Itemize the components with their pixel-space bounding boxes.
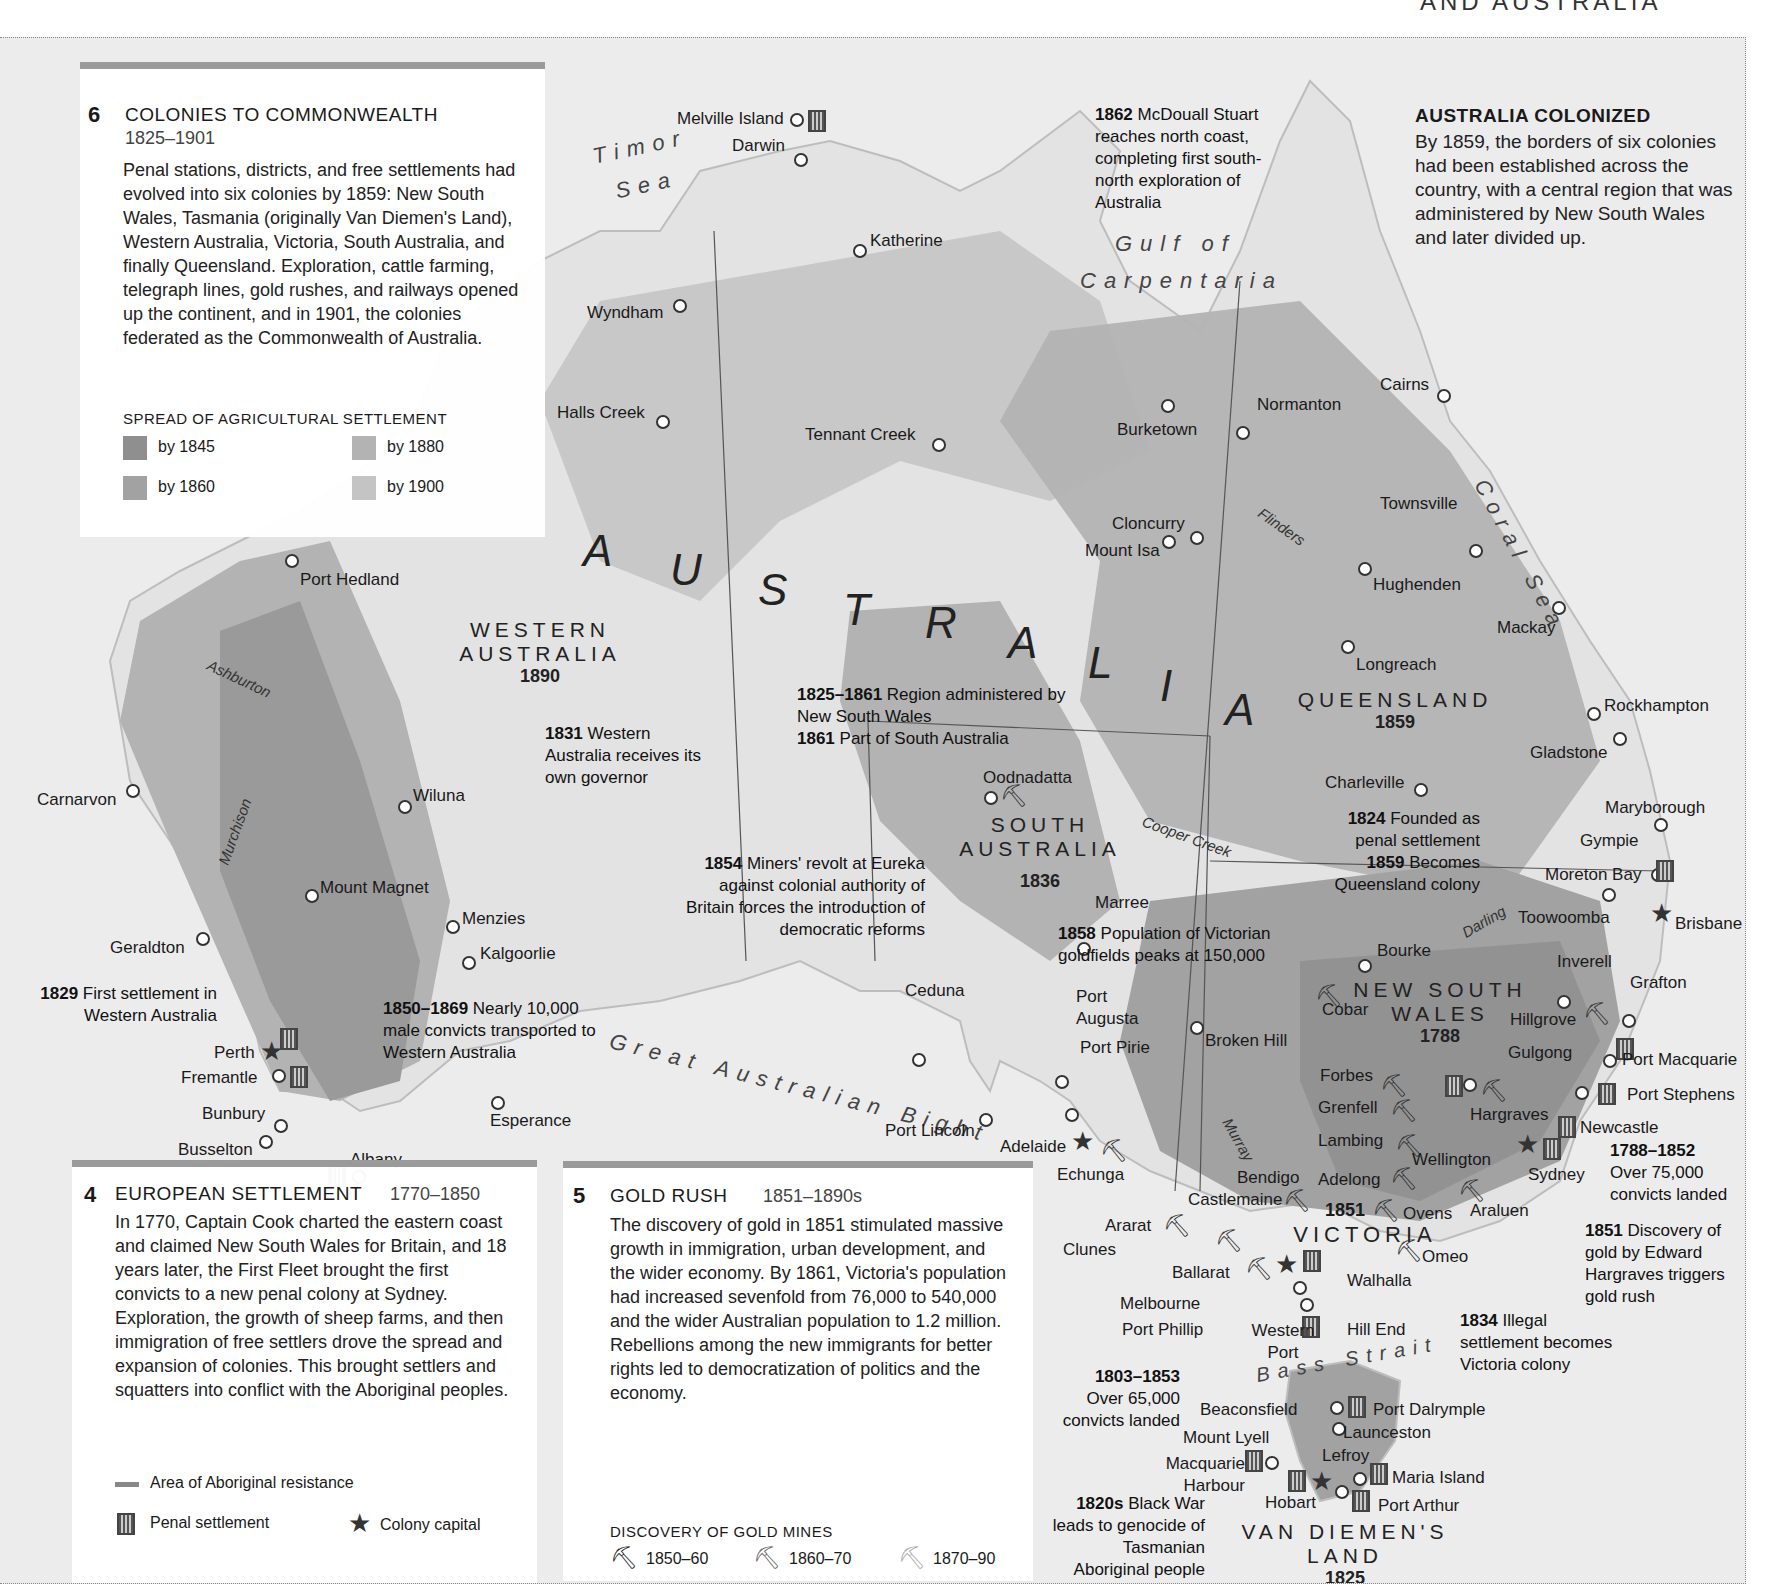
legend-title: DISCOVERY OF GOLD MINES — [610, 1523, 833, 1540]
city-longreach: Longreach — [1356, 655, 1436, 675]
city-cairns: Cairns — [1380, 375, 1429, 395]
city-dot — [1587, 707, 1601, 721]
legend-label: Area of Aboriginal resistance — [150, 1474, 354, 1492]
city-adelaide: Adelaide — [1000, 1137, 1066, 1157]
big-letter: A — [583, 526, 612, 576]
city-ballarat: Ballarat — [1172, 1263, 1230, 1283]
city-tennant-creek: Tennant Creek — [805, 425, 916, 445]
city-esperance: Esperance — [490, 1111, 571, 1131]
gold-mine-pickaxe-icon: ⛏ — [1100, 1138, 1128, 1164]
penal-settlement-icon — [1303, 1250, 1321, 1272]
city-gladstone: Gladstone — [1530, 743, 1608, 763]
penal-settlement-icon — [280, 1028, 298, 1050]
city-dot — [1341, 640, 1355, 654]
note-year: 1825–1861 — [797, 685, 882, 704]
city-dot — [1300, 1298, 1314, 1312]
city-hillgrove: Hillgrove — [1510, 1010, 1576, 1030]
city-gulgong: Gulgong — [1508, 1043, 1572, 1063]
city-dot — [984, 791, 998, 805]
gold-mine-pickaxe-icon: ⛏ — [1163, 1213, 1191, 1239]
city-dot — [1353, 1472, 1367, 1486]
region-year: 1890 — [440, 666, 640, 687]
city-moreton-bay: Moreton Bay — [1545, 865, 1641, 885]
city-dot — [305, 889, 319, 903]
legend-label: Colony capital — [380, 1516, 481, 1534]
city-darwin: Darwin — [732, 136, 785, 156]
city-dot — [1161, 399, 1175, 413]
city-dot — [673, 299, 687, 313]
city-carnarvon: Carnarvon — [37, 790, 116, 810]
gold-mine-pickaxe-icon: ⛏ — [1000, 783, 1028, 809]
city-bunbury: Bunbury — [202, 1104, 265, 1124]
colony-capital-star-icon: ★ — [1516, 1131, 1539, 1157]
city-dot — [656, 415, 670, 429]
city-wellington: Wellington — [1412, 1150, 1491, 1170]
city-mount-isa: Mount Isa — [1085, 541, 1160, 561]
penal-settlement-icon — [1352, 1490, 1370, 1512]
gold-mine-pickaxe-icon: ⛏ — [1390, 1098, 1418, 1124]
note-1803-1853: 1803–1853Over 65,000 convicts landed — [1050, 1366, 1180, 1432]
gold-mine-pickaxe-icon: ⛏ — [1390, 1166, 1418, 1192]
city-forbes: Forbes — [1320, 1066, 1373, 1086]
city-bourke: Bourke — [1377, 941, 1431, 961]
city-broken-hill: Broken Hill — [1205, 1031, 1287, 1051]
city-dot — [1190, 1021, 1204, 1035]
city-burketown: Burketown — [1117, 420, 1197, 440]
city-melville-island: Melville Island — [677, 109, 784, 129]
city-normanton: Normanton — [1257, 395, 1341, 415]
city-dot — [932, 438, 946, 452]
note-text: First settlement in Western Australia — [83, 984, 217, 1025]
note-year: 1859 — [1367, 853, 1405, 872]
colony-capital-star-icon: ★ — [1071, 1128, 1094, 1154]
city-dot — [274, 1119, 288, 1133]
city-dot — [1065, 1108, 1079, 1122]
panel-dates: 1770–1850 — [390, 1184, 480, 1205]
city-newcastle: Newcastle — [1580, 1118, 1658, 1138]
city-dot — [462, 956, 476, 970]
city-kalgoorlie: Kalgoorlie — [480, 944, 556, 964]
city-inverell: Inverell — [1557, 952, 1612, 972]
city-townsville: Townsville — [1380, 494, 1457, 514]
city-dot — [979, 1113, 993, 1127]
city-dot — [1293, 1281, 1307, 1295]
city-walhalla: Walhalla — [1347, 1271, 1412, 1291]
city-lefroy: Lefroy — [1322, 1446, 1369, 1466]
city-maryborough: Maryborough — [1605, 798, 1705, 818]
city-launceston: Launceston — [1343, 1423, 1431, 1443]
legend-label: 1870–90 — [933, 1550, 995, 1568]
city-dot — [285, 554, 299, 568]
city-dot — [446, 920, 460, 934]
note-1824: 1824 Founded as penal settlement1859 Bec… — [1315, 808, 1480, 896]
panel-bar — [80, 62, 545, 69]
colony-capital-star-icon: ★ — [348, 1510, 371, 1536]
city-katherine: Katherine — [870, 231, 943, 251]
penal-settlement-icon — [1288, 1470, 1306, 1492]
city-dot — [196, 932, 210, 946]
city-dot — [126, 784, 140, 798]
legend-swatch-1845 — [123, 436, 147, 460]
penal-settlement-icon — [808, 110, 826, 132]
region-year: 1836 — [940, 871, 1140, 892]
panel-number: 5 — [573, 1183, 585, 1209]
city-dot — [259, 1135, 273, 1149]
penal-settlement-icon — [1656, 860, 1674, 882]
note-1858: 1858 Population of Victorian goldfields … — [1058, 923, 1308, 967]
note-year: 1834 — [1460, 1311, 1498, 1330]
note-year: 1862 — [1095, 105, 1133, 124]
note-text: Over 65,000 convicts landed — [1063, 1389, 1180, 1430]
region-van-diemens-land: VAN DIEMEN'S LAND 1825 — [1240, 1520, 1450, 1584]
penal-settlement-icon — [1348, 1396, 1366, 1418]
gold-mine-pickaxe-icon: ⛏ — [1283, 1188, 1311, 1214]
city-gympie: Gympie — [1580, 831, 1639, 851]
city-dot — [1469, 544, 1483, 558]
big-letter: A — [1225, 685, 1254, 735]
penal-settlement-icon — [1558, 1116, 1576, 1138]
gold-mine-pickaxe-icon: ⛏ — [1480, 1078, 1508, 1104]
note-year: 1803–1853 — [1095, 1367, 1180, 1386]
note-year: 1854 — [704, 854, 742, 873]
city-marree: Marree — [1095, 893, 1149, 913]
city-dot — [1265, 1456, 1279, 1470]
gold-mine-pickaxe-icon: ⛏ — [1583, 1001, 1611, 1027]
penal-settlement-icon — [1245, 1450, 1263, 1472]
city-port-hedland: Port Hedland — [300, 570, 399, 590]
